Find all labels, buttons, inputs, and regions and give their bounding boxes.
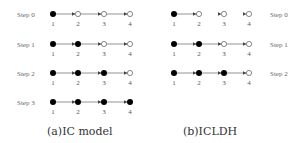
step-row: Step 01234 xyxy=(17,11,133,29)
step-row: Step 11234 xyxy=(17,41,133,59)
step-label: Step 0 xyxy=(270,11,288,19)
node-active xyxy=(221,70,227,76)
node-label: 1 xyxy=(172,20,176,28)
node-label: 2 xyxy=(197,79,201,87)
node-label: 1 xyxy=(172,79,176,87)
step-row: Step 21234 xyxy=(17,70,133,88)
node-active xyxy=(50,70,56,76)
step-label: Step 0 xyxy=(17,11,35,19)
node-active xyxy=(50,11,56,17)
node-active xyxy=(75,70,81,76)
node-label: 3 xyxy=(102,108,106,116)
node-label: 4 xyxy=(247,79,251,87)
panel-icldh: Step 01234Step 11234Step 21234 xyxy=(171,11,288,88)
node-label: 1 xyxy=(51,20,55,28)
step-label: Step 2 xyxy=(17,70,35,78)
node-label: 4 xyxy=(128,50,132,58)
caption-ic-model: (a)IC model xyxy=(47,125,113,138)
node-active xyxy=(171,70,177,76)
node-label: 2 xyxy=(197,20,201,28)
node-active xyxy=(127,99,133,105)
node-label: 4 xyxy=(128,108,132,116)
node-label: 2 xyxy=(76,50,80,58)
node-active xyxy=(75,41,81,47)
node-label: 1 xyxy=(51,79,55,87)
node-label: 4 xyxy=(128,20,132,28)
step-label: Step 3 xyxy=(17,99,35,107)
node-inactive xyxy=(246,41,251,46)
node-inactive xyxy=(101,41,106,46)
node-inactive xyxy=(127,11,132,16)
step-row: Step 21234 xyxy=(171,70,288,88)
node-label: 3 xyxy=(222,20,226,28)
node-label: 3 xyxy=(102,50,106,58)
step-label: Step 1 xyxy=(270,41,288,49)
step-row: Step 31234 xyxy=(17,99,133,117)
node-label: 2 xyxy=(76,20,80,28)
node-active xyxy=(50,41,56,47)
step-label: Step 1 xyxy=(17,41,35,49)
node-label: 3 xyxy=(222,79,226,87)
node-inactive xyxy=(221,41,226,46)
node-inactive xyxy=(75,11,80,16)
panel-ic-model: Step 01234Step 11234Step 21234Step 31234 xyxy=(17,11,133,117)
node-active xyxy=(50,99,56,105)
node-active xyxy=(75,99,81,105)
node-active xyxy=(196,70,202,76)
node-label: 3 xyxy=(102,20,106,28)
node-label: 2 xyxy=(76,108,80,116)
node-label: 4 xyxy=(247,20,251,28)
node-label: 4 xyxy=(247,50,251,58)
node-label: 2 xyxy=(197,50,201,58)
caption-icldh: (b)ICLDH xyxy=(183,125,237,138)
step-label: Step 2 xyxy=(270,70,288,78)
node-inactive xyxy=(196,11,201,16)
step-row: Step 11234 xyxy=(171,41,288,59)
node-inactive xyxy=(246,70,251,75)
node-inactive xyxy=(127,70,132,75)
node-active xyxy=(171,41,177,47)
node-inactive xyxy=(246,11,251,16)
node-active xyxy=(196,41,202,47)
diffusion-diagram: Step 01234Step 11234Step 21234Step 31234… xyxy=(0,0,304,143)
node-active xyxy=(101,70,107,76)
node-label: 2 xyxy=(76,79,80,87)
node-label: 1 xyxy=(51,50,55,58)
node-inactive xyxy=(221,11,226,16)
node-active xyxy=(101,99,107,105)
node-label: 3 xyxy=(222,50,226,58)
node-active xyxy=(171,11,177,17)
node-label: 1 xyxy=(51,108,55,116)
node-inactive xyxy=(127,41,132,46)
node-label: 3 xyxy=(102,79,106,87)
node-label: 4 xyxy=(128,79,132,87)
node-inactive xyxy=(101,11,106,16)
step-row: Step 01234 xyxy=(171,11,288,29)
node-label: 1 xyxy=(172,50,176,58)
